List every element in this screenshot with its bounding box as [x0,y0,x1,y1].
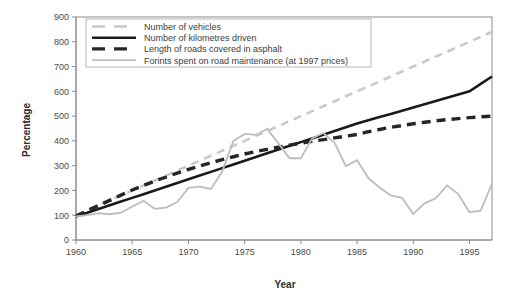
y-axis-title: Percentage [21,103,32,157]
y-tick-label: 900 [54,12,69,22]
y-tick-label: 300 [54,161,69,171]
y-tick-label: 100 [54,211,69,221]
chart-container: 0100200300400500600700800900 19601965197… [0,0,507,296]
x-tick-label: 1990 [403,247,423,257]
chart-legend: Number of vehiclesNumber of kilometres d… [86,19,371,67]
x-tick-label: 1985 [347,247,367,257]
x-tick-label: 1995 [459,247,479,257]
x-tick-label: 1975 [235,247,255,257]
x-tick-label: 1980 [291,247,311,257]
legend-label-2: Number of kilometres driven [144,33,257,43]
y-tick-label: 400 [54,136,69,146]
x-axis-title: Year [274,279,295,290]
line-chart: 0100200300400500600700800900 19601965197… [0,0,507,296]
legend-label-4: Forints spent on road maintenance (at 19… [144,56,348,66]
y-tick-label: 0 [64,235,69,245]
y-axis-tick-group: 0100200300400500600700800900 [54,12,76,245]
y-tick-label: 800 [54,37,69,47]
y-tick-label: 500 [54,111,69,121]
x-tick-label: 1960 [66,247,86,257]
y-tick-label: 700 [54,62,69,72]
x-tick-label: 1970 [178,247,198,257]
x-tick-label: 1965 [122,247,142,257]
y-tick-label: 600 [54,87,69,97]
legend-label-1: Number of vehicles [144,22,222,32]
legend-label-3: Length of roads covered in asphalt [144,44,283,54]
y-tick-label: 200 [54,186,69,196]
x-axis-tick-group: 19601965197019751980198519901995 [66,240,480,257]
series-line-2 [76,76,492,216]
series-line-4 [76,129,492,216]
